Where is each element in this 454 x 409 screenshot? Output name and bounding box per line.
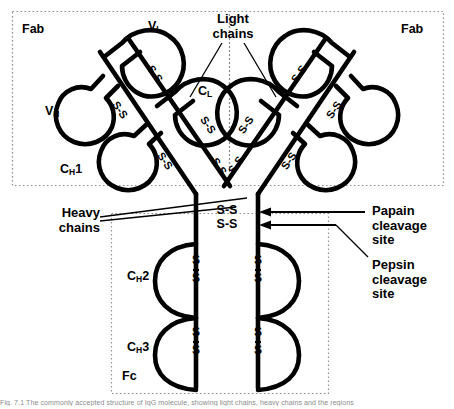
v-h-label: VH: [45, 105, 59, 119]
figure-caption: Fig. 7.1 The commonly accepted structure…: [0, 399, 454, 406]
ss-ch3-left-s-bottom: S: [192, 343, 200, 357]
hinge-disulfide-bonds: S-S S-S: [217, 203, 238, 231]
ss-ch3-left-s-top: S: [192, 325, 200, 339]
hinge-ss-bond-2: S-S: [217, 217, 238, 231]
ss-ch3-right-s-bottom: S: [254, 343, 262, 357]
light-chains-label: Light chains: [209, 12, 257, 41]
c-h2-label: CH2: [127, 270, 149, 284]
c-h1-subscript: H: [69, 167, 75, 177]
v-l-label: VL: [148, 20, 162, 34]
c-h3-left-domain: [155, 318, 196, 390]
fc-disulfide-bonds: S S S S S S S S: [192, 253, 262, 357]
v-h-left-domain: [56, 76, 118, 144]
ss-ch3-right-s-top: S: [254, 325, 262, 339]
ss-ch2-right-s-top: S: [254, 253, 262, 267]
c-h2-left-domain: [155, 244, 196, 318]
papain-arrowhead: [259, 208, 271, 217]
c-h2-right-domain: [258, 244, 299, 318]
ss-ch2-left-s-top: S: [192, 253, 200, 267]
ss-bond-left-hinge: -S-S: [207, 152, 229, 177]
fab-right-arm: [217, 30, 398, 194]
antibody-structure-figure: S-S S-S S-S S-S -S-S S-S S-S S-S S-S S-S…: [0, 0, 454, 409]
v-h-subscript: H: [53, 109, 59, 119]
papain-cleavage-site-label: Papain cleavage site: [372, 204, 427, 248]
ss-ch2-left-s-bottom: S: [192, 271, 200, 285]
c-h3-suffix: 3: [142, 340, 149, 354]
cleavage-arrowheads: [259, 208, 271, 230]
fc-bond-dashes: [193, 270, 261, 342]
hinge-ss-bond-1: S-S: [217, 203, 238, 217]
c-l-subscript: L: [207, 89, 212, 99]
ss-ch2-right-s-bottom: S: [254, 271, 262, 285]
fab-right-label: Fab: [401, 23, 423, 37]
c-h3-right-domain: [258, 318, 299, 390]
c-h1-label: CH1: [60, 163, 82, 177]
v-h-right-domain: [336, 76, 398, 144]
c-l-label: CL: [198, 85, 212, 99]
pepsin-cleavage-site-label: Pepsin cleavage site: [372, 258, 427, 302]
c-h2-subscript: H: [136, 274, 142, 284]
fab-right-box: [230, 12, 444, 186]
fab-left-label: Fab: [22, 23, 44, 37]
fab-left-arm: [56, 30, 237, 194]
pepsin-arrowhead: [259, 221, 271, 230]
c-h3-subscript: H: [136, 345, 142, 355]
heavy-chains-label: Heavy chains: [51, 206, 100, 235]
fc-label: Fc: [122, 370, 137, 384]
v-l-subscript: L: [156, 24, 161, 34]
c-h3-label: CH3: [127, 341, 149, 355]
c-h2-domains: [155, 244, 299, 318]
pepsin-leader: [336, 225, 368, 257]
c-h3-domains: [155, 318, 299, 390]
c-h2-suffix: 2: [142, 269, 149, 283]
c-h1-suffix: 1: [75, 162, 82, 176]
